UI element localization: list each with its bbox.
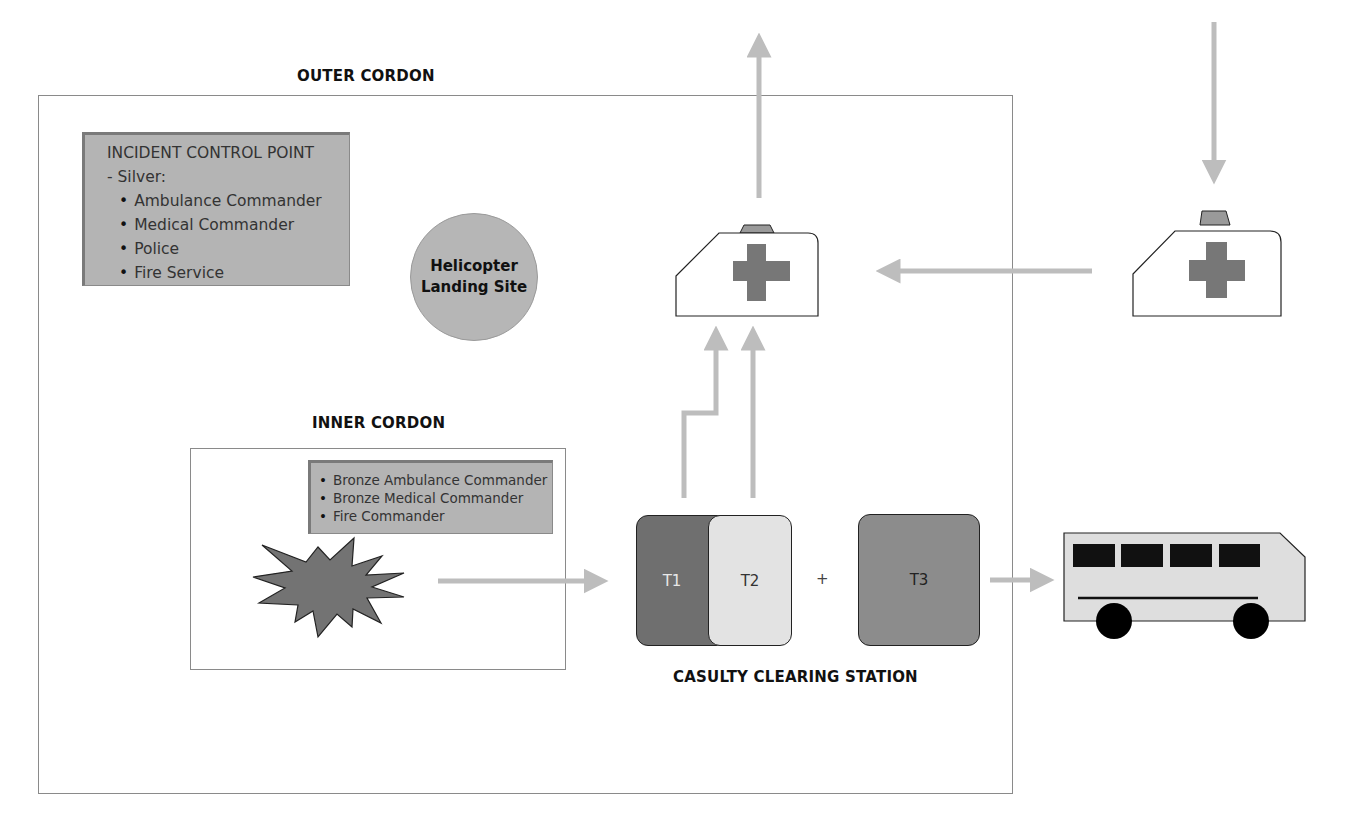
triage-t2-area: T2	[708, 515, 792, 646]
triage-t3-area: T3	[858, 514, 980, 646]
arrow-t1-to-ambulance	[684, 338, 716, 498]
bus-icon	[1064, 533, 1305, 639]
plus-sign: +	[816, 570, 829, 588]
ambulance-icon-inside	[676, 225, 818, 316]
ambulance-icon-outside	[1133, 211, 1281, 316]
diagram-graphics	[0, 0, 1347, 817]
casualty-clearing-station-label: CASULTY CLEARING STATION	[673, 668, 918, 686]
explosion-icon	[253, 538, 404, 637]
